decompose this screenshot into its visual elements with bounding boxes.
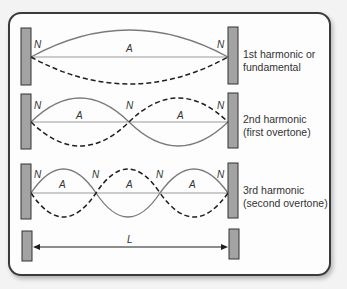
standing-waves-diagram: N A N N N N A A N N N N A A A L <box>0 0 347 289</box>
right-wall <box>228 27 238 84</box>
antinode-label: A <box>188 179 196 190</box>
arrow-head-left-icon <box>33 244 40 250</box>
node-label: N <box>34 100 42 111</box>
node-label: N <box>126 100 134 111</box>
node-label: N <box>217 100 225 111</box>
dashed-wave <box>31 57 228 84</box>
node-label: N <box>92 169 100 180</box>
harmonic-2: N N N A A <box>21 93 238 149</box>
caption-harmonic-3: 3rd harmonic (second overtone) <box>243 184 328 210</box>
caption-harmonic-1: 1st harmonic or fundamental <box>243 48 315 74</box>
length-indicator: L <box>22 229 239 261</box>
antinode-label: A <box>58 179 66 190</box>
harmonic-1: N A N <box>21 27 238 85</box>
caption-line: 1st harmonic or <box>243 48 315 61</box>
left-wall <box>21 164 31 219</box>
right-wall <box>229 229 239 259</box>
antinode-label: A <box>125 179 133 190</box>
caption-line: (second overtone) <box>243 197 328 210</box>
left-wall <box>21 94 31 149</box>
caption-harmonic-2: 2nd harmonic (first overtone) <box>243 113 311 139</box>
antinode-label: A <box>176 110 184 121</box>
caption-line: 2nd harmonic <box>243 113 311 126</box>
arrow-head-right-icon <box>221 244 228 250</box>
length-label: L <box>127 234 133 245</box>
antinode-label: A <box>125 43 133 54</box>
harmonic-3: N N N N A A A <box>21 163 238 219</box>
right-wall <box>228 93 238 148</box>
antinode-label: A <box>75 110 83 121</box>
left-wall <box>22 231 32 261</box>
caption-line: fundamental <box>243 61 315 74</box>
left-wall <box>21 28 31 85</box>
caption-line: 3rd harmonic <box>243 184 328 197</box>
node-label: N <box>34 39 42 50</box>
caption-line: (first overtone) <box>243 126 311 139</box>
node-label: N <box>217 169 225 180</box>
node-label: N <box>156 169 164 180</box>
node-label: N <box>217 39 225 50</box>
node-label: N <box>34 169 42 180</box>
right-wall <box>228 163 238 218</box>
